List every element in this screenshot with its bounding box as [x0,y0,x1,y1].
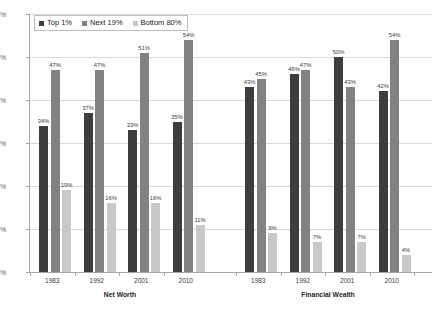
bar-value-label: 19% [57,182,76,188]
category-label: 1983 [34,277,71,285]
bar-value-label: 7% [308,234,327,240]
y-tick-label: 50% [0,54,6,61]
bar [196,225,205,272]
bar [184,40,193,272]
bar [62,190,71,272]
bar [128,130,137,272]
bar [51,70,60,272]
y-tick-label: 40% [0,97,6,104]
y-tick-label: 60% [0,11,6,18]
group-label-financial-wealth: Financial Wealth [248,290,408,299]
plot-area: 34%47%19%37%47%16%33%51%16%35%54%11%43%4… [30,14,432,272]
bar [290,74,299,272]
bar-value-label: 54% [385,32,404,38]
bar [346,87,355,272]
category-tick [119,272,120,276]
category-label: 2010 [374,277,411,285]
bar-value-label: 50% [329,49,348,55]
bar [173,122,182,273]
bar-value-label: 47% [296,62,315,68]
legend-item-top-1: Top 1% [39,19,72,27]
bar [245,87,254,272]
category-tick [30,272,31,276]
category-tick [281,272,282,276]
bar [39,126,48,272]
bar [268,233,277,272]
legend-swatch-icon [39,21,44,26]
bar-chart: 60% 50% 40% 30% 20% 10% 0% 34%47%19%37%4… [0,0,440,312]
bar [379,91,388,272]
bar-value-label: 45% [252,71,271,77]
gridline [30,57,432,58]
bar-value-label: 51% [135,45,154,51]
legend-swatch-icon [133,21,138,26]
bar [390,40,399,272]
bar [151,203,160,272]
category-label: 2010 [168,277,205,285]
y-tick-label: 30% [0,140,6,147]
legend-item-next-19: Next 19% [82,19,123,27]
category-tick [414,272,415,276]
bar [140,53,149,272]
category-tick [236,272,237,276]
bar-value-label: 4% [397,247,416,253]
category-tick [164,272,165,276]
legend-label: Bottom 80% [141,19,182,27]
y-tick-label: 0% [0,269,6,276]
gridline [30,100,432,101]
bar-value-label: 11% [191,217,210,223]
bar [313,242,322,272]
legend-label: Next 19% [90,19,123,27]
legend-swatch-icon [82,21,87,26]
bar [301,70,310,272]
bar [107,203,116,272]
bar [257,79,266,273]
category-tick [325,272,326,276]
bar [84,113,93,272]
bar [402,255,411,272]
category-label: 2001 [329,277,366,285]
category-label: 1992 [79,277,116,285]
y-tick-label: 20% [0,183,6,190]
category-tick [75,272,76,276]
bar-value-label: 9% [263,225,282,231]
y-tick-label: 10% [0,226,6,233]
chart-legend: Top 1% Next 19% Bottom 80% [34,15,188,31]
bar-value-label: 16% [146,195,165,201]
category-label: 2001 [123,277,160,285]
bar [334,57,343,272]
bar [357,242,366,272]
category-label: 1983 [240,277,277,285]
bar-value-label: 47% [90,62,109,68]
category-label: 1992 [285,277,322,285]
category-tick [370,272,371,276]
bar-value-label: 47% [46,62,65,68]
legend-label: Top 1% [47,19,72,27]
bar-value-label: 54% [179,32,198,38]
group-label-net-worth: Net Worth [40,290,200,299]
bar-value-label: 7% [352,234,371,240]
bar-value-label: 16% [102,195,121,201]
legend-item-bottom-80: Bottom 80% [133,19,182,27]
bar-value-label: 43% [341,79,360,85]
axis-baseline [30,272,432,273]
bar [95,70,104,272]
